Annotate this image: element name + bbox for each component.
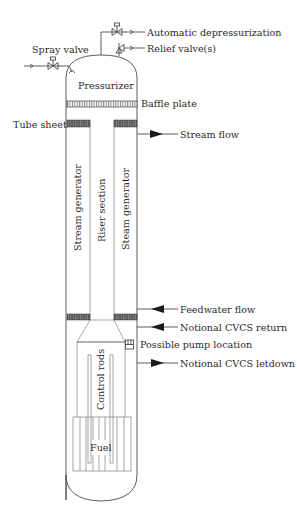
reactor-diagram: Spray valve Automatic depressurization R… — [0, 0, 297, 519]
relief-valves-label: Relief valve(s) — [147, 43, 216, 54]
spray-valve-label: Spray valve — [32, 44, 89, 55]
tube-sheet-label: Tube sheet — [13, 119, 67, 130]
transition-cone — [77, 320, 125, 342]
arrow-left-icon — [151, 305, 164, 313]
relief-valve-assembly: Relief valve(s) — [116, 43, 216, 57]
riser-section-label: Riser section — [96, 179, 107, 242]
stream-flow-label: Stream flow — [180, 129, 240, 140]
spray-valve-icon[interactable] — [48, 57, 58, 70]
pressurizer-label: Pressurizer — [78, 80, 134, 91]
fuel-label: Fuel — [90, 442, 112, 453]
arrow-right-icon — [151, 359, 164, 367]
stream-generator-left-label: Stream generator — [72, 164, 83, 251]
possible-pump-location-label: Possible pump location — [140, 339, 252, 350]
cvcs-letdown-arrow — [137, 359, 178, 367]
depressurization-valve-icon[interactable] — [112, 23, 122, 36]
stream-flow-arrow — [137, 130, 178, 138]
notional-cvcs-return-label: Notional CVCS return — [180, 322, 287, 333]
control-rods-label: Control rods — [95, 349, 106, 410]
upper-tube-sheet — [67, 120, 137, 127]
feedwater-flow-label: Feedwater flow — [180, 304, 256, 315]
feedwater-flow-arrow — [137, 305, 178, 313]
relief-valve-icon[interactable] — [116, 43, 124, 53]
depressurization-line — [101, 32, 145, 55]
lower-tube-sheet — [67, 314, 137, 320]
arrow-left-icon — [151, 323, 164, 331]
arrow-right-icon — [150, 130, 163, 138]
automatic-depressurization-label: Automatic depressurization — [146, 27, 281, 38]
notional-cvcs-letdown-label: Notional CVCS letdown — [180, 358, 295, 369]
pump-icon[interactable] — [126, 340, 134, 349]
steam-generator-right-label: Steam generator — [120, 167, 131, 250]
baffle-plate-label: Baffle plate — [141, 98, 197, 109]
cvcs-return-arrow — [137, 323, 178, 331]
baffle-plate — [67, 101, 137, 107]
